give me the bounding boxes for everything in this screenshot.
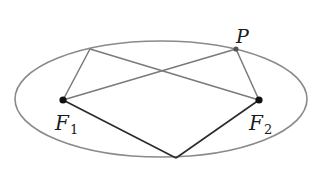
focus-f2-point [255, 96, 262, 103]
point-p [233, 46, 238, 51]
segment-f1-p [63, 49, 236, 100]
label-f1: F1 [54, 111, 78, 137]
ellipse-foci-diagram: F1 F2 P [0, 0, 330, 173]
diagram-svg: F1 F2 P [0, 0, 330, 173]
segment-f1-r [63, 100, 176, 158]
segment-q-f2 [90, 49, 259, 100]
focus-f1-point [59, 96, 66, 103]
segment-r-f2 [176, 100, 259, 158]
segment-p-f2 [236, 49, 259, 100]
ellipse-curve [15, 41, 307, 157]
label-p: P [235, 25, 250, 47]
label-f2-subscript: 2 [264, 122, 272, 137]
label-f2: F2 [248, 111, 272, 137]
segment-f1-q [63, 49, 90, 100]
label-f1-subscript: 1 [70, 122, 78, 137]
